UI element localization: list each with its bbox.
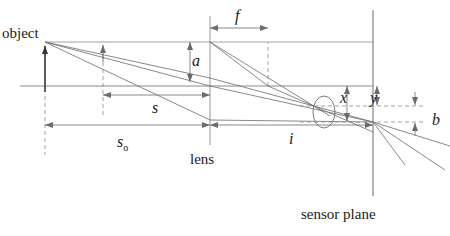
ray-lens-upper-to-sensor (210, 78, 373, 122)
ray-object-to-lens-upper (45, 42, 210, 78)
ray-bundle (45, 42, 450, 170)
ray-object-to-lens-center (45, 42, 210, 86)
dimension-label-s-o: so (117, 134, 128, 153)
vertical-reference-lines (45, 48, 103, 155)
dimension-label-y: y (370, 90, 377, 106)
dimension-label-x: x (340, 90, 347, 106)
ray-beyond-sensor-3 (373, 122, 405, 165)
construction-lines (45, 42, 373, 86)
lens-label: lens (190, 152, 214, 167)
ray-lens-center-to-sensor (210, 86, 373, 122)
dimension-label-f: f (235, 8, 239, 24)
ray-beyond-sensor-2 (373, 122, 445, 170)
ray-object-to-lens-bottom (45, 42, 210, 120)
dimension-label-a: a (192, 53, 200, 69)
s-o-subscript: o (123, 142, 128, 153)
optics-ray-diagram (0, 0, 450, 236)
ray-to-focal-point (210, 42, 268, 86)
dimension-label-b: b (432, 112, 440, 128)
object-label: object (2, 26, 39, 41)
sensor-plane-label: sensor plane (301, 207, 376, 222)
dimension-label-s: s (152, 100, 158, 116)
dimension-label-i: i (289, 131, 293, 147)
